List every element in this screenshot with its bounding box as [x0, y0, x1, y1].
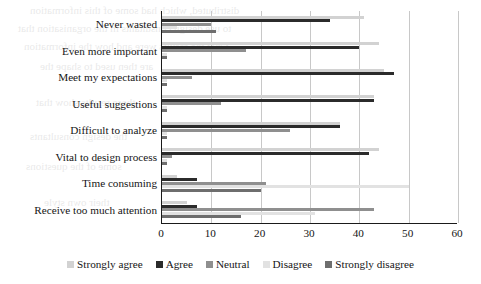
legend-item: Neutral	[206, 258, 250, 271]
bar	[162, 208, 374, 211]
category-label: Difficult to analyze	[0, 124, 157, 136]
bar	[162, 30, 216, 33]
bar	[162, 53, 167, 56]
bar	[162, 56, 167, 59]
bar-group	[162, 95, 457, 112]
x-tick-label: 20	[254, 226, 265, 240]
x-tick-label: 0	[158, 226, 164, 240]
legend-label: Agree	[166, 258, 193, 271]
bar	[162, 99, 374, 102]
bar	[162, 125, 340, 128]
bar	[162, 182, 266, 185]
bar	[162, 215, 241, 218]
bar	[162, 122, 340, 125]
bar	[162, 16, 364, 19]
legend-item: Disagree	[263, 258, 313, 271]
bar-group	[162, 16, 457, 33]
x-tick-label: 30	[303, 226, 314, 240]
bar	[162, 136, 167, 139]
legend-swatch-icon	[206, 261, 213, 268]
bar	[162, 155, 172, 158]
legend-swatch-icon	[325, 261, 332, 268]
chart-legend: Strongly agreeAgreeNeutralDisagreeStrong…	[0, 255, 481, 273]
x-tick-label: 40	[353, 226, 364, 240]
legend-label: Strongly disagree	[335, 258, 414, 271]
legend-item: Strongly agree	[67, 258, 143, 271]
bar	[162, 95, 374, 98]
category-label: Meet my expectations	[0, 71, 157, 83]
bar	[162, 79, 167, 82]
legend-label: Disagree	[273, 258, 313, 271]
bar	[162, 49, 246, 52]
bar	[162, 205, 197, 208]
legend-swatch-icon	[156, 261, 163, 268]
gridline	[458, 11, 459, 223]
bar	[162, 178, 197, 181]
bar	[162, 129, 290, 132]
bar	[162, 175, 177, 178]
bar	[162, 102, 221, 105]
bar	[162, 69, 384, 72]
bar-group	[162, 148, 457, 165]
bar	[162, 212, 315, 215]
legend-label: Strongly agree	[77, 258, 143, 271]
category-label: Useful suggestions	[0, 98, 157, 110]
category-label: Even more important	[0, 45, 157, 57]
bar	[162, 72, 394, 75]
bar	[162, 148, 379, 151]
legend-item: Agree	[156, 258, 193, 271]
bar	[162, 19, 330, 22]
x-axis-line	[161, 223, 457, 224]
x-axis-tick-labels: 0102030405060	[0, 226, 481, 242]
bar	[162, 185, 409, 188]
legend-swatch-icon	[263, 261, 270, 268]
bar-group	[162, 122, 457, 139]
legend-item: Strongly disagree	[325, 258, 414, 271]
bar	[162, 162, 167, 165]
x-tick-label: 50	[402, 226, 413, 240]
x-tick-label: 10	[205, 226, 216, 240]
bar	[162, 106, 167, 109]
legend-swatch-icon	[67, 261, 74, 268]
bar-group	[162, 201, 457, 218]
bar	[162, 76, 192, 79]
category-label: Never wasted	[0, 18, 157, 30]
bar	[162, 83, 167, 86]
bar	[162, 132, 167, 135]
category-label: Receive too much attention	[0, 204, 157, 216]
x-tick-label: 60	[451, 226, 462, 240]
bar-chart: distributed, which had some of this info…	[0, 0, 481, 284]
bar	[162, 26, 177, 29]
bar-group	[162, 175, 457, 192]
bar	[162, 159, 167, 162]
bar	[162, 152, 369, 155]
category-label: Time consuming	[0, 177, 157, 189]
bar-group	[162, 69, 457, 86]
bar	[162, 109, 167, 112]
category-label: Vital to design process	[0, 151, 157, 163]
bar	[162, 201, 187, 204]
bar	[162, 189, 261, 192]
category-axis: Never wastedEven more importantMeet my e…	[0, 11, 157, 223]
legend-label: Neutral	[216, 258, 250, 271]
bar	[162, 23, 211, 26]
plot-area	[161, 11, 457, 223]
bar	[162, 42, 379, 45]
bar-group	[162, 42, 457, 59]
bar	[162, 46, 359, 49]
